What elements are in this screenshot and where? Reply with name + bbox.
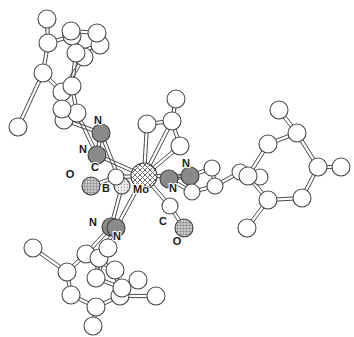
atom-o <box>82 177 100 195</box>
lbl-mo-center: Mo <box>133 183 149 195</box>
atom-c <box>62 22 80 40</box>
bond <box>38 251 62 269</box>
atom-c <box>24 239 42 257</box>
atom-c <box>113 279 131 297</box>
bond <box>143 131 148 164</box>
lbl-c-bot: C <box>159 215 167 227</box>
bond <box>300 139 316 162</box>
bond <box>20 79 42 121</box>
bond <box>128 294 149 297</box>
atom-c <box>332 158 350 176</box>
atom-c <box>288 124 306 142</box>
atom-c <box>171 137 189 155</box>
bond <box>304 173 316 192</box>
atom-c <box>88 24 106 42</box>
atom-layer <box>9 10 350 335</box>
lbl-n-bot-b: N <box>113 230 121 242</box>
atom-c <box>293 189 311 207</box>
atom-c <box>53 100 71 118</box>
atom-c <box>87 269 105 287</box>
atom-c <box>207 178 223 194</box>
bond <box>251 150 266 171</box>
bond <box>71 121 95 132</box>
bond <box>152 150 175 170</box>
atom-c <box>106 261 124 279</box>
lbl-b-boron: B <box>102 182 110 194</box>
atom-c <box>62 286 80 304</box>
lbl-n-top-b: N <box>79 143 87 155</box>
bond <box>275 197 294 201</box>
lbl-n-top-a: N <box>94 114 102 126</box>
atom-c <box>84 317 102 335</box>
atom-c <box>259 191 277 209</box>
lbl-o-bot: O <box>173 235 182 247</box>
atom-c <box>270 101 288 119</box>
atom-c <box>204 160 220 176</box>
atom-c <box>9 118 27 136</box>
atom-n <box>181 167 199 185</box>
atom-c <box>39 34 57 52</box>
atom-c <box>167 90 185 108</box>
atom-c <box>163 112 181 130</box>
atom-c <box>138 115 156 133</box>
atom-c <box>162 198 178 214</box>
lbl-n-right-a: N <box>182 157 190 169</box>
lbl-c-left: C <box>91 161 99 173</box>
atom-c <box>67 44 85 62</box>
atom-c <box>87 298 105 316</box>
atom-c <box>147 287 165 305</box>
atom-c <box>34 64 52 82</box>
atom-c <box>129 271 147 289</box>
atom-c <box>184 184 200 200</box>
molecule-canvas: NNOCBMoNNNNCO <box>0 0 354 337</box>
atom-c <box>108 169 124 185</box>
lbl-o-left: O <box>66 168 75 180</box>
atom-c <box>38 10 56 28</box>
lbl-n-right-b: N <box>169 182 177 194</box>
atom-c <box>58 263 76 281</box>
atom-c <box>239 167 257 185</box>
atom-c <box>63 77 81 95</box>
atom-c <box>309 158 327 176</box>
molecular-structure-figure: NNOCBMoNNNNCO <box>0 0 354 337</box>
atom-c <box>259 135 277 153</box>
lbl-n-bot-a: N <box>89 216 97 228</box>
atom-n <box>92 124 110 142</box>
bond <box>148 127 170 167</box>
atom-c <box>238 219 256 237</box>
